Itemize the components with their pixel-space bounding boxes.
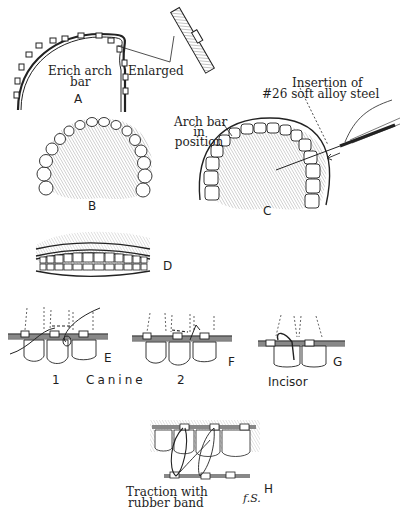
erich-arch-bar-label-line2: bar xyxy=(70,76,91,88)
panel-letter-c: C xyxy=(263,205,271,217)
insertion-label-line2: #26 soft alloy steel xyxy=(262,88,379,100)
panel-f-canine-wiring-2-drawing xyxy=(132,313,232,365)
artist-signature: f.S. xyxy=(243,493,261,504)
panel-h-traction-drawing xyxy=(150,420,260,479)
canine-group-label: Canine xyxy=(86,374,146,386)
traction-label-line2: rubber band xyxy=(128,497,204,508)
panel-d-frontal-view-drawing xyxy=(36,232,150,276)
panel-letter-a: A xyxy=(74,93,82,105)
panel-letter-b: B xyxy=(88,200,96,212)
panel-letter-g: G xyxy=(333,356,342,368)
panel-g-incisor-wiring-drawing xyxy=(258,315,345,367)
panel-letter-h: H xyxy=(264,483,273,495)
panel-c-arch-with-bar-drawing xyxy=(199,88,400,210)
panel-letter-e: E xyxy=(104,352,112,364)
panel-e-canine-wiring-1-drawing xyxy=(8,307,108,364)
panel-number-1: 1 xyxy=(52,374,60,386)
arch-bar-in-position-label-line3: position xyxy=(174,136,224,148)
panel-letter-f: F xyxy=(228,356,235,368)
panel-b-dental-arch-drawing xyxy=(37,118,152,200)
enlarged-label: Enlarged xyxy=(128,65,184,77)
panel-a-arch-bar-drawing xyxy=(14,6,218,113)
incisor-group-label: Incisor xyxy=(268,376,308,388)
panel-number-2: 2 xyxy=(177,374,185,386)
panel-letter-d: D xyxy=(163,260,172,272)
